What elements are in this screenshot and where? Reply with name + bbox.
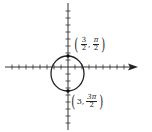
close-paren: ) [102, 36, 106, 53]
theta-fraction: π 2 [93, 37, 100, 52]
theta-denominator: 2 [89, 102, 95, 109]
top-point-marker [66, 54, 70, 58]
polar-graph [0, 0, 152, 132]
r-fraction: 3 2 [81, 37, 87, 52]
r-denominator: 2 [81, 45, 87, 52]
open-paren: ( [71, 93, 75, 110]
comma: , [88, 40, 91, 49]
theta-denominator: 2 [93, 45, 99, 52]
comma: , [82, 97, 85, 106]
top-point-label: ( 3 2 , π 2 ) [73, 36, 107, 53]
open-paren: ( [74, 36, 78, 53]
theta-fraction: 3π 2 [86, 94, 97, 109]
bottom-point-label: ( 3 , 3π 2 ) [70, 93, 105, 110]
close-paren: ) [100, 93, 104, 110]
